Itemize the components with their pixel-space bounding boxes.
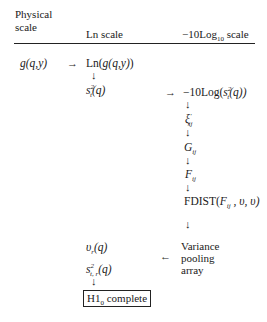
- node-neg10log: −10Log(s2t(q)): [183, 87, 247, 99]
- node-s2: s2t(q): [86, 85, 105, 97]
- node-ln-g: Ln(g(q,y)): [86, 58, 134, 70]
- node-fdist: FDIST(Fij , υ, υ): [184, 196, 259, 208]
- arrow-down-icon: ↓: [185, 155, 191, 166]
- arrow-down-icon: ↓: [185, 182, 191, 193]
- arrow-down-icon: ↓: [91, 276, 97, 287]
- node-s2-pooled: s2t, r(q): [86, 264, 112, 276]
- arrow-down-icon: ↓: [185, 99, 191, 110]
- arrow-down-icon: ↓: [91, 70, 97, 81]
- arrow-left-icon: ←: [160, 251, 171, 262]
- header-ln-scale: Ln scale: [86, 29, 123, 40]
- header-physical-line1: Physical: [15, 9, 52, 20]
- header-rule: [14, 43, 255, 44]
- header-physical-line2: scale: [15, 22, 52, 33]
- arrow-down-icon: ↓: [185, 127, 191, 138]
- node-G: Gij: [184, 142, 196, 154]
- header-log-scale: −10Log10 scale: [182, 29, 249, 40]
- node-g: g(q,y): [20, 58, 47, 70]
- arrow-right-icon: →: [165, 87, 176, 98]
- node-F: Fij: [185, 169, 196, 181]
- arrow-right-icon: →: [67, 58, 78, 69]
- header-physical-scale: Physical scale: [15, 9, 52, 33]
- node-nu: υr(q): [86, 242, 107, 254]
- node-h1-complete: H10 complete: [83, 290, 151, 307]
- node-xi: ξ′ij: [185, 114, 192, 126]
- arrow-down-icon: ↓: [185, 219, 191, 230]
- node-variance-pooling-array: Variance pooling array: [181, 240, 219, 276]
